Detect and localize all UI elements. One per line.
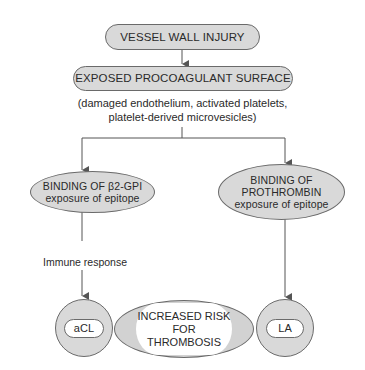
la-circle: LA [256,299,314,357]
prothrombin-binding-ellipse: BINDING OF PROTHROMBIN exposure of epito… [218,164,345,220]
acl-circle: aCL [55,299,113,357]
procoagulant-surface-label: EXPOSED PROCOAGULANT SURFACE [75,72,290,85]
thrombosis-risk-line3: THROMBOSIS [147,336,221,349]
vessel-wall-injury-box: VESSEL WALL INJURY [105,24,260,50]
beta2-gpi-subtitle: exposure of epitope [45,192,139,204]
immune-response-label: Immune response [35,255,135,269]
thrombosis-risk-box: INCREASED RISK FOR THROMBOSIS [136,303,232,355]
surface-note-line1: (damaged endothelium, activated platelet… [40,96,325,110]
beta2-gpi-binding-ellipse: BINDING OF β2-GPI exposure of epitope [30,171,155,213]
thrombosis-risk-line1: INCREASED RISK [138,310,231,323]
thrombosis-risk-line2: FOR [172,323,195,336]
prothrombin-title-line2: PROTHROMBIN [242,186,322,198]
vessel-wall-injury-label: VESSEL WALL INJURY [120,31,244,44]
beta2-gpi-title: BINDING OF β2-GPI [43,180,142,192]
acl-label: aCL [64,319,104,338]
prothrombin-subtitle: exposure of epitope [234,198,328,210]
surface-note-line2: platelet-derived microvesicles) [40,110,325,124]
surface-note: (damaged endothelium, activated platelet… [40,96,325,124]
procoagulant-surface-box: EXPOSED PROCOAGULANT SURFACE [73,66,293,91]
prothrombin-title-line1: BINDING OF [250,174,312,186]
la-label: LA [266,319,304,338]
